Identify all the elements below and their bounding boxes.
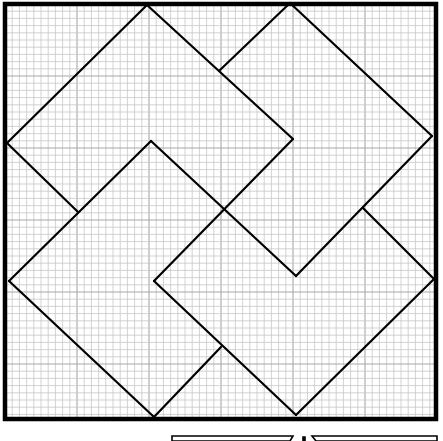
outline-segment — [220, 3, 290, 70]
tick-mark — [303, 437, 305, 441]
grid-diagram — [0, 0, 443, 441]
outline-segment — [9, 281, 154, 417]
outline-segment — [363, 208, 434, 279]
outline-segment — [7, 143, 78, 212]
bottom-cutoff-shapes — [172, 436, 437, 441]
left-trapezoid — [172, 436, 293, 441]
right-trapezoid — [312, 436, 437, 441]
outline-segment — [154, 347, 221, 417]
outline-segment — [290, 3, 432, 136]
